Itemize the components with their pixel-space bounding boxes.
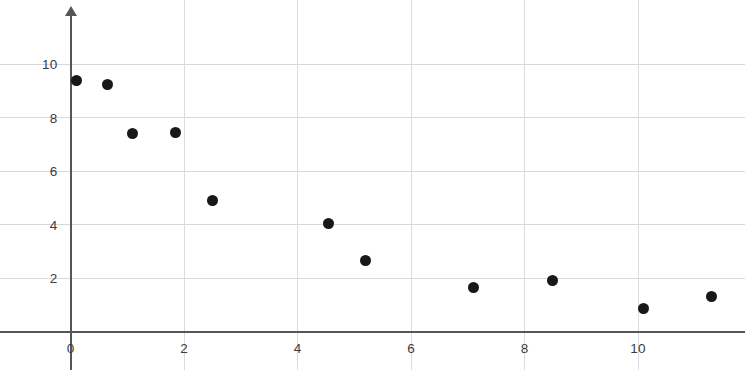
gridline-x-6 <box>411 0 412 370</box>
data-point <box>102 79 113 90</box>
plot-area: 246810 0246810 <box>0 0 745 370</box>
y-axis-arrow-icon <box>65 6 77 16</box>
x-tick-label-4: 4 <box>294 341 302 356</box>
x-axis-line <box>0 331 745 333</box>
data-point <box>207 195 218 206</box>
gridline-y-2 <box>0 278 745 279</box>
gridline-y-8 <box>0 117 745 118</box>
gridline-x-10 <box>638 0 639 370</box>
data-point <box>323 218 334 229</box>
y-tick-label-6: 6 <box>50 164 58 179</box>
data-point <box>170 127 181 138</box>
gridline-x-2 <box>184 0 185 370</box>
x-tick-label-10: 10 <box>630 341 645 356</box>
gridline-y-4 <box>0 224 745 225</box>
data-point <box>360 255 371 266</box>
y-tick-label-10: 10 <box>42 57 57 72</box>
scatter-plot-figure: 246810 0246810 Scatter plot showing a de… <box>0 0 745 370</box>
data-point <box>71 75 82 86</box>
data-point <box>547 275 558 286</box>
y-axis-line <box>70 14 72 370</box>
gridline-x-4 <box>297 0 298 370</box>
x-tick-label-6: 6 <box>407 341 415 356</box>
x-tick-label-8: 8 <box>521 341 529 356</box>
y-tick-label-4: 4 <box>50 217 58 232</box>
y-tick-label-8: 8 <box>50 110 58 125</box>
gridline-y-10 <box>0 64 745 65</box>
x-tick-label-0: 0 <box>67 341 75 356</box>
gridline-x-8 <box>524 0 525 370</box>
gridline-y-6 <box>0 171 745 172</box>
data-point <box>706 291 717 302</box>
data-point <box>127 128 138 139</box>
data-point <box>468 282 479 293</box>
data-point <box>638 303 649 314</box>
y-tick-label-2: 2 <box>50 271 58 286</box>
x-tick-label-2: 2 <box>180 341 188 356</box>
